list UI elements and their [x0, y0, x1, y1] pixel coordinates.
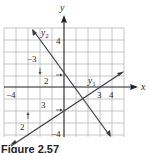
axes: [4, 20, 134, 137]
figure-caption: Figure 2.57: [1, 144, 59, 153]
y2-label: y2: [40, 28, 49, 40]
y1-rise-arrow-icon: [27, 112, 30, 115]
y-tick-neg4: −4: [51, 129, 61, 139]
coordinate-plane-figure: y x y2 y1 −4 3 4 4 −4 −3 2 3 2: [0, 0, 150, 153]
x-tick-neg4: −4: [6, 90, 16, 100]
x-tick-3: 3: [97, 90, 102, 100]
annotation-2-upper: 2: [44, 76, 49, 86]
annotation-neg3: −3: [27, 54, 37, 64]
x-axis-arrow-icon: [130, 84, 138, 90]
y2-rise-arrow-icon: [39, 72, 42, 75]
x-axis-label: x: [140, 81, 146, 92]
y-axis-label: y: [59, 2, 65, 13]
y-tick-4: 4: [56, 36, 61, 46]
y-axis-arrow-icon: [61, 15, 67, 23]
x-tick-4: 4: [109, 90, 114, 100]
annotation-3-lower: 3: [41, 100, 46, 110]
annotation-2-lower: 2: [20, 122, 25, 132]
